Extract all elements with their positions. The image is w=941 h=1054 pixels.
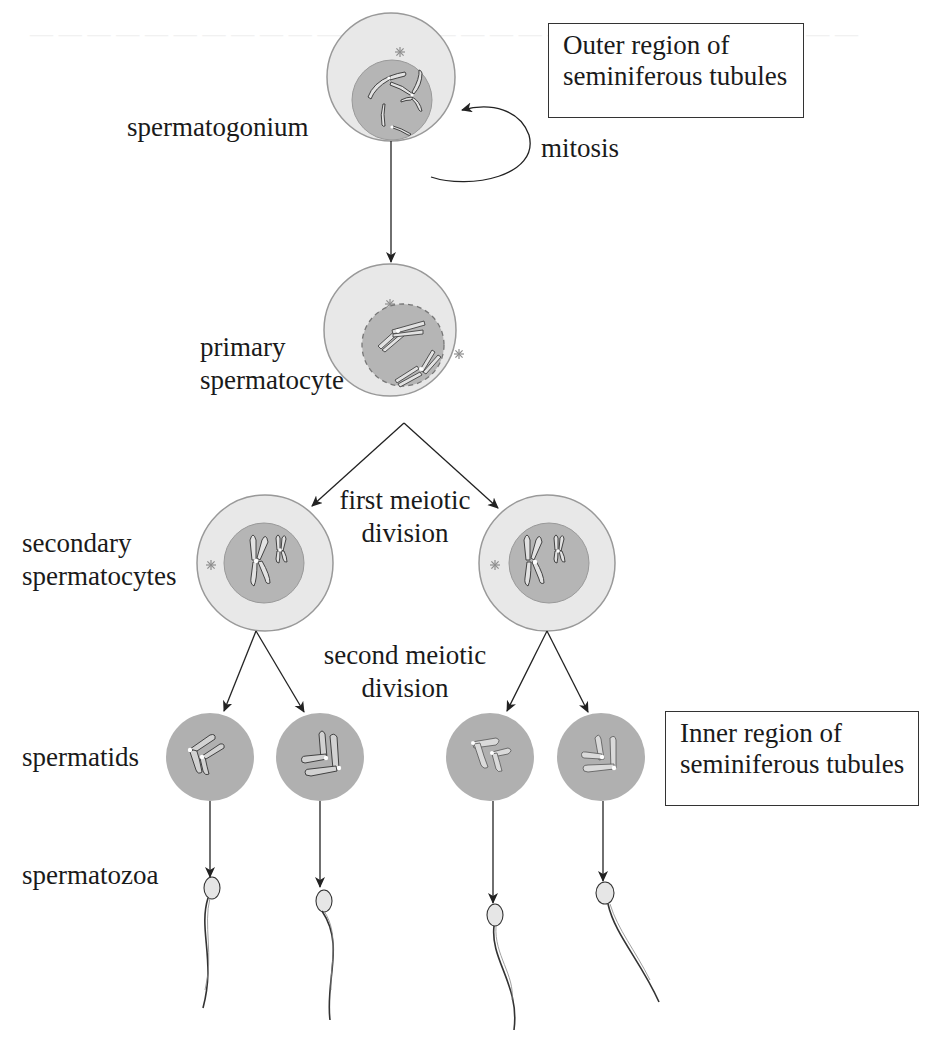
inner-region-box: Inner region of seminiferous tubules — [665, 711, 919, 806]
label-primary-line1: primary — [200, 332, 285, 363]
label-spermatids: spermatids — [22, 742, 139, 773]
spermatid-3 — [446, 713, 534, 801]
label-second-meiotic-line1: second meiotic — [315, 640, 495, 671]
spermatozoon-3 — [487, 904, 515, 1030]
inner-region-line1: Inner region of — [680, 718, 908, 749]
spermatid-4 — [557, 713, 645, 801]
label-first-meiotic-line1: first meiotic — [330, 485, 480, 516]
secondary-spermatocyte-right — [479, 495, 615, 631]
outer-region-line1: Outer region of — [563, 30, 793, 61]
label-secondary-line2: spermatocytes — [22, 561, 176, 592]
label-mitosis: mitosis — [541, 133, 619, 164]
spermatid-1 — [166, 713, 254, 801]
label-secondary-line1: secondary — [22, 528, 131, 559]
spermatozoon-2 — [316, 890, 333, 1020]
label-second-meiotic-line2: division — [315, 673, 495, 704]
mitosis-arrow — [431, 107, 530, 182]
spermatogonium-cell — [327, 13, 455, 141]
outer-region-box: Outer region of seminiferous tubules — [548, 23, 804, 118]
inner-region-line2: seminiferous tubules — [680, 749, 908, 780]
centriole-icon — [395, 47, 405, 57]
label-primary-line2: spermatocyte — [200, 365, 344, 396]
primary-spermatocyte-cell — [324, 264, 464, 396]
label-first-meiotic-line2: division — [330, 518, 480, 549]
spermatozoon-1 — [203, 877, 220, 1008]
spermatozoon-4 — [596, 882, 659, 1002]
label-spermatogonium: spermatogonium — [127, 112, 308, 143]
outer-region-line2: seminiferous tubules — [563, 61, 793, 92]
spermatid-2 — [276, 713, 364, 801]
secondary-spermatocyte-left — [197, 495, 333, 631]
label-spermatozoa: spermatozoa — [22, 860, 158, 891]
